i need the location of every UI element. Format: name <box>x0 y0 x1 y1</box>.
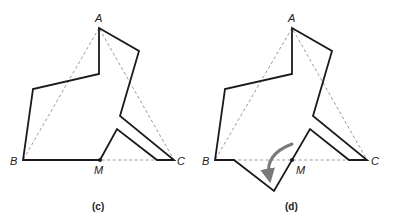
diagram-canvas: A B C M (c) A B C M (d) <box>0 0 398 223</box>
dashed-triangle-abc <box>215 28 367 160</box>
label-b: B <box>10 155 17 167</box>
label-c: C <box>177 155 185 167</box>
figure-d: A B C M (d) <box>202 12 379 212</box>
label-a: A <box>287 12 295 24</box>
polygon-outline <box>23 28 174 160</box>
caption-c: (c) <box>92 201 104 212</box>
polygon-outline <box>215 28 367 191</box>
label-a: A <box>94 12 102 24</box>
point-m <box>98 158 102 162</box>
label-b: B <box>202 155 209 167</box>
point-m <box>290 158 294 162</box>
label-c: C <box>371 155 379 167</box>
caption-d: (d) <box>285 201 298 212</box>
figure-c: A B C M (c) <box>10 12 185 212</box>
label-m: M <box>296 164 306 176</box>
label-m: M <box>94 164 104 176</box>
